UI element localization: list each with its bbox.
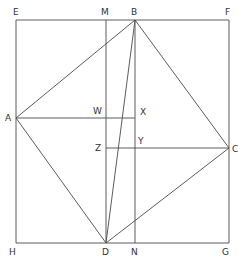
label-W: W bbox=[93, 106, 102, 116]
label-A: A bbox=[5, 113, 12, 123]
label-N: N bbox=[131, 247, 138, 257]
label-Z: Z bbox=[95, 143, 101, 153]
label-B: B bbox=[131, 7, 137, 17]
geometry-diagram: E M B F A W X Z Y C H D N G bbox=[0, 0, 238, 272]
label-F: F bbox=[225, 7, 230, 17]
segments-group bbox=[16, 20, 229, 243]
label-Y: Y bbox=[137, 136, 144, 146]
label-M: M bbox=[101, 7, 109, 17]
segment-AB bbox=[16, 20, 135, 118]
label-G: G bbox=[222, 247, 229, 257]
segment-BD bbox=[106, 20, 135, 243]
segment-BC bbox=[135, 20, 229, 148]
label-H: H bbox=[9, 247, 16, 257]
segment-CD bbox=[106, 148, 229, 243]
label-C: C bbox=[232, 144, 238, 154]
label-D: D bbox=[102, 247, 109, 257]
labels-group: E M B F A W X Z Y C H D N G bbox=[5, 7, 238, 257]
label-E: E bbox=[13, 7, 19, 17]
segment-DA bbox=[16, 118, 106, 243]
label-X: X bbox=[140, 107, 146, 117]
